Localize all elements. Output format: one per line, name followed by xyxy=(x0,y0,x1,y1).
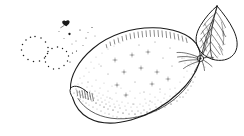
lemon-illustration: Hand-drawn lemon with leaf pen-and-ink s… xyxy=(0,0,244,136)
ink-drawing-svg xyxy=(0,0,244,136)
